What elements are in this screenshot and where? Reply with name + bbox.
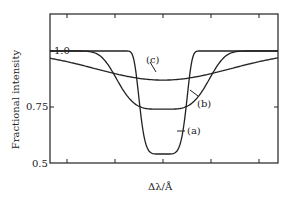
curve-c bbox=[50, 58, 278, 80]
ytick-1.0: 1.0 bbox=[54, 45, 70, 56]
ticks bbox=[50, 14, 278, 163]
label-c: (c) bbox=[146, 54, 159, 65]
label-b: (b) bbox=[197, 98, 211, 109]
y-axis-label: Fractional intensity bbox=[10, 45, 21, 155]
pointer-arrows bbox=[150, 62, 198, 131]
x-axis-label: Δλ/Å bbox=[148, 181, 172, 192]
plot-frame bbox=[50, 14, 278, 163]
ytick-0.75: 0.75 bbox=[26, 101, 48, 112]
ytick-0.5: 0.5 bbox=[32, 158, 48, 169]
chart bbox=[0, 0, 297, 200]
curve-a bbox=[50, 51, 278, 154]
label-a: (a) bbox=[187, 125, 201, 136]
